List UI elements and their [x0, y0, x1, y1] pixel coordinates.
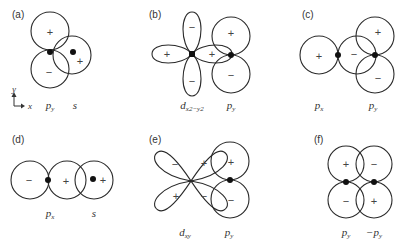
nucleus-dot — [189, 51, 195, 57]
panel-b: (b) − − + + + − dx2−y2 py — [149, 9, 250, 113]
d-lobe-bottom-right — [191, 181, 227, 211]
sign: + — [164, 48, 170, 60]
orbital-label-dx2y2: dx2−y2 — [180, 99, 204, 113]
panel-e: (e) − + + − + − dxy py — [149, 134, 249, 240]
sign: + — [209, 48, 215, 60]
sign: − — [189, 75, 195, 87]
sign: − — [228, 194, 234, 206]
panel-f: (f) + − − + py −py — [314, 134, 392, 240]
x-axis-label: x — [27, 101, 32, 111]
orbital-label-neg-py: −py — [366, 226, 383, 240]
sign: − — [375, 72, 381, 84]
sign: − — [351, 48, 357, 60]
orbital-label-s: s — [73, 99, 77, 111]
s-orbital — [53, 36, 91, 74]
sign: + — [77, 55, 83, 67]
sign: − — [46, 66, 52, 78]
sign: + — [371, 195, 377, 207]
d-lobe-left — [152, 45, 192, 63]
d-lobe-top-right — [191, 151, 227, 181]
nucleus-dot — [227, 177, 233, 183]
orbital-label-py: py — [341, 226, 352, 240]
nucleus-dot — [70, 49, 76, 55]
sign: − — [26, 174, 32, 186]
orbital-overlap-diagram: (a) + − + y x py s (b) − − + — [0, 0, 404, 250]
sign: + — [343, 158, 349, 170]
panel-c: (c) + − + − px py — [300, 9, 394, 113]
nucleus-dot — [343, 179, 349, 185]
orbital-label-py: py — [224, 226, 235, 240]
orbital-label-py: py — [226, 99, 237, 113]
orbital-label-s: s — [92, 207, 96, 219]
sign: + — [228, 156, 234, 168]
panel-label: (a) — [12, 9, 24, 20]
sign: + — [47, 26, 53, 38]
sign: + — [100, 174, 106, 186]
sign: + — [228, 27, 234, 39]
orbital-label-dxy: dxy — [179, 226, 192, 240]
sign: − — [343, 195, 349, 207]
d-lobe-top — [183, 12, 201, 54]
sign: − — [371, 158, 377, 170]
sign: + — [316, 50, 322, 62]
nucleus-dot — [371, 179, 377, 185]
panel-label: (e) — [149, 134, 161, 145]
nucleus-dot — [45, 177, 51, 183]
nucleus-dot — [90, 176, 96, 182]
nucleus-dot — [372, 52, 378, 58]
orbital-label-py: py — [45, 99, 56, 113]
axis-indicator: y x — [11, 84, 32, 111]
nucleus-dot — [335, 52, 341, 58]
sign: + — [63, 175, 69, 187]
nucleus-dot — [47, 49, 53, 55]
panel-d: (d) − + + px s — [11, 134, 113, 221]
panel-label: (f) — [314, 134, 323, 145]
sign: − — [228, 69, 234, 81]
y-axis-label: y — [11, 84, 16, 94]
orbital-label-px: px — [314, 99, 325, 113]
nucleus-dot — [228, 52, 234, 58]
sign: + — [375, 26, 381, 38]
sign: − — [189, 21, 195, 33]
sign: + — [201, 157, 207, 169]
orbital-label-px: px — [45, 207, 56, 221]
sign: − — [201, 190, 207, 202]
sign: − — [172, 158, 178, 170]
panel-label: (b) — [149, 9, 161, 20]
panel-a: (a) + − + y x py s — [11, 9, 91, 113]
orbital-label-py: py — [368, 99, 379, 113]
panel-label: (d) — [12, 134, 24, 145]
panel-label: (c) — [302, 9, 314, 20]
sign: + — [173, 190, 179, 202]
